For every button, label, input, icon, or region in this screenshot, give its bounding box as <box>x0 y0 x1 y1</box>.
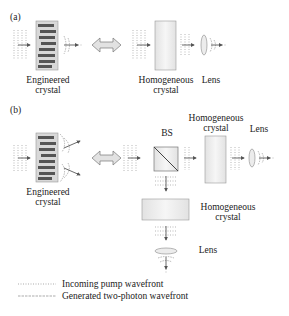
label-line: Engineered <box>16 75 80 85</box>
label-line: Homogeneous <box>195 202 261 212</box>
label-line: crystal <box>133 85 199 95</box>
homogeneous-crystal-top-label: Homogeneous crystal <box>183 113 249 133</box>
beam-splitter <box>154 147 178 171</box>
label-line: Engineered <box>16 187 80 197</box>
lens-bottom <box>155 248 177 254</box>
homogeneous-crystal-bottom-label: Homogeneous crystal <box>195 202 261 222</box>
label-line: crystal <box>183 123 249 133</box>
homogeneous-crystal-a-label: Homogeneous crystal <box>133 75 199 95</box>
label-line: Homogeneous <box>183 113 249 123</box>
equivalence-arrow-b <box>92 151 121 165</box>
equivalence-arrow-a <box>92 38 121 52</box>
engineered-crystal-a-label: Engineered crystal <box>16 75 80 95</box>
lens-a <box>201 35 207 55</box>
bs-label: BS <box>157 128 177 138</box>
lens-top <box>249 149 255 167</box>
lens-a-label: Lens <box>196 75 226 85</box>
engineered-crystal-a <box>36 21 58 70</box>
lens-bottom-label: Lens <box>193 245 223 255</box>
label-line: Homogeneous <box>133 75 199 85</box>
label-line: crystal <box>195 212 261 222</box>
legend-two-photon: Generated two-photon wavefront <box>62 291 188 301</box>
engineered-crystal-b <box>36 133 58 182</box>
legend-incoming-pump: Incoming pump wavefront <box>62 279 163 289</box>
homogeneous-crystal-a <box>155 21 176 70</box>
engineered-crystal-b-label: Engineered crystal <box>16 187 80 207</box>
homogeneous-crystal-bottom <box>142 199 189 220</box>
label-line: crystal <box>16 197 80 207</box>
diagram-canvas <box>0 0 289 316</box>
homogeneous-crystal-top <box>205 136 226 183</box>
panel-a <box>14 21 227 70</box>
label-line: crystal <box>16 85 80 95</box>
lens-top-label: Lens <box>244 124 274 134</box>
